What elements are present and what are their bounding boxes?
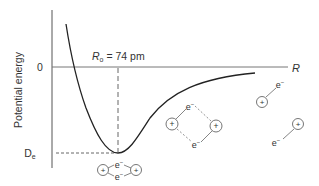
intermediate-h2: + + e− e−: [166, 101, 222, 150]
y-axis-label: Potential energy: [12, 51, 24, 128]
electron-bottom: e−: [115, 171, 124, 182]
separated-h-atoms: + e− + e−: [257, 79, 304, 148]
de-label: De: [24, 147, 36, 160]
proton-sign: +: [101, 166, 106, 175]
electron-top: e−: [115, 159, 124, 170]
proton-sign: +: [260, 98, 265, 107]
proton-sign: +: [214, 121, 219, 131]
electron-upper: e−: [276, 79, 285, 90]
electron-lower: e−: [272, 137, 281, 148]
proton-sign: +: [170, 119, 175, 129]
proton-sign: +: [134, 166, 139, 175]
r0-label: Ro = 74 pm: [92, 50, 145, 63]
potential-energy-diagram: Potential energy 0 R De Ro = 74 pm + + e…: [0, 0, 319, 186]
electron-top: e−: [186, 101, 195, 112]
zero-label: 0: [37, 61, 43, 73]
bonded-h2-molecule: + + e− e−: [98, 159, 142, 182]
proton-sign: +: [296, 120, 301, 129]
electron-bottom: e−: [192, 139, 201, 150]
potential-energy-curve: [66, 24, 255, 153]
x-axis-label: R: [292, 62, 300, 74]
